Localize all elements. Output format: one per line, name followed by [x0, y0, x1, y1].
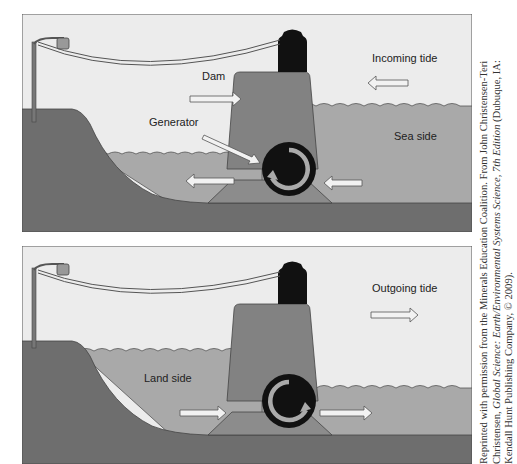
- sea-side-label: Sea side: [394, 130, 437, 142]
- incoming-tide-panel: Dam Generator Incoming tide Sea side: [22, 14, 472, 232]
- credit-line-3: Kendall Hunt Publishing Company, © 2009)…: [503, 0, 516, 464]
- credit-book-title: Global Science: Earth/Environmental Syst…: [490, 125, 501, 409]
- generator-label: Generator: [149, 116, 199, 128]
- credit-line-1: Reprinted with permission from the Miner…: [478, 0, 491, 464]
- dam-label: Dam: [202, 70, 225, 82]
- outgoing-tide-label: Outgoing tide: [372, 282, 437, 294]
- generator-housing: [278, 30, 307, 73]
- generator-housing: [278, 262, 307, 305]
- incoming-tide-label: Incoming tide: [372, 52, 437, 64]
- credit-line-2-a: Christensen,: [490, 409, 501, 464]
- land-side-label: Land side: [144, 372, 192, 384]
- outgoing-tide-diagram: Outgoing tide Land side: [22, 246, 472, 464]
- credit-caption: Reprinted with permission from the Miner…: [476, 0, 517, 464]
- street-lamp-icon: [57, 38, 69, 49]
- street-lamp-icon: [57, 264, 69, 275]
- credit-line-2-b: (Dubuque, IA:: [490, 60, 501, 124]
- credit-line-2: Christensen, Global Science: Earth/Envir…: [490, 0, 503, 464]
- utility-pole: [32, 42, 36, 122]
- outgoing-tide-panel: Outgoing tide Land side: [22, 246, 472, 464]
- incoming-tide-diagram: Dam Generator Incoming tide Sea side: [22, 14, 472, 232]
- utility-pole: [32, 268, 36, 348]
